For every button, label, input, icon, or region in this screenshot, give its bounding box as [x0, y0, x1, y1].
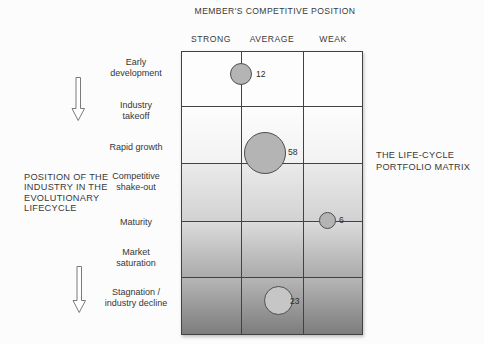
- grid-column-divider-1: [241, 52, 242, 334]
- row-label-market-saturation: Market saturation: [76, 247, 196, 268]
- bubble-value-12: 12: [256, 69, 266, 79]
- figure-caption: THE LIFE-CYCLE PORTFOLIO MATRIX: [376, 150, 470, 173]
- bubble-maturity-6: [319, 212, 336, 229]
- grid-band-1: [182, 52, 362, 107]
- column-header-strong: STRONG: [181, 34, 241, 44]
- bubble-value-23: 23: [290, 296, 300, 306]
- grid-column-divider-2: [303, 52, 304, 334]
- bubble-value-6: 6: [339, 215, 344, 225]
- bubble-value-58: 58: [288, 147, 298, 157]
- row-label-rapid-growth: Rapid growth: [76, 142, 196, 153]
- down-arrow-icon: [72, 266, 87, 313]
- row-label-maturity: Maturity: [76, 217, 196, 228]
- grid-band-4: [182, 222, 362, 278]
- matrix-title: MEMBER'S COMPETITIVE POSITION: [150, 6, 400, 16]
- lifecycle-portfolio-matrix-figure: MEMBER'S COMPETITIVE POSITION STRONG AVE…: [0, 0, 484, 344]
- row-label-industry-takeoff: Industry takeoff: [76, 100, 196, 121]
- column-header-weak: WEAK: [303, 34, 363, 44]
- left-axis-caption: POSITION OF THE INDUSTRY IN THE EVOLUTIO…: [24, 172, 108, 214]
- bubble-stagnation-23: [264, 286, 293, 315]
- bubble-rapid-growth-58: [244, 132, 286, 174]
- row-label-early-development: Early development: [76, 57, 196, 78]
- down-arrow-icon: [71, 77, 86, 121]
- row-label-stagnation-industry-decline: Stagnation / industry decline: [76, 287, 196, 308]
- column-header-average: AVERAGE: [241, 34, 303, 44]
- bubble-early-development-12: [230, 63, 252, 85]
